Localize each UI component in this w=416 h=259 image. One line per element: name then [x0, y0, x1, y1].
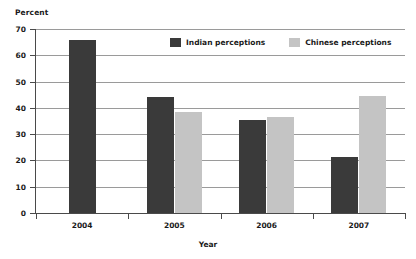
- legend-label-chinese: Chinese perceptions: [305, 38, 391, 47]
- legend-swatch-chinese-icon: [289, 38, 300, 47]
- y-tick-mark: [30, 82, 35, 83]
- x-tick-mark: [36, 213, 37, 219]
- legend-item-indian: Indian perceptions: [170, 38, 265, 47]
- x-tick-mark: [128, 213, 129, 219]
- bar-2006-indian: [239, 120, 266, 213]
- plot-area: [36, 29, 405, 213]
- x-tick-label-2006: 2006: [237, 221, 297, 230]
- x-tick-mark: [221, 213, 222, 219]
- y-tick-mark: [30, 160, 35, 161]
- y-tick-label: 10: [2, 183, 26, 192]
- y-tick-label: 20: [2, 156, 26, 165]
- y-tick-mark: [30, 108, 35, 109]
- chart-legend: Indian perceptions Chinese perceptions: [170, 38, 391, 47]
- y-tick-label: 70: [2, 25, 26, 34]
- y-tick-label: 40: [2, 104, 26, 113]
- legend-item-chinese: Chinese perceptions: [289, 38, 391, 47]
- bar-chart: Percent Indian perceptions Chinese perce…: [0, 0, 416, 259]
- bar-2007-indian: [331, 157, 358, 214]
- y-tick-label: 50: [2, 78, 26, 87]
- x-tick-label-2004: 2004: [52, 221, 112, 230]
- bar-2006-chinese: [267, 117, 294, 213]
- y-tick-mark: [30, 187, 35, 188]
- y-tick-label: 30: [2, 130, 26, 139]
- gridline: [36, 29, 405, 30]
- y-tick-mark: [30, 55, 35, 56]
- y-tick-label: 0: [2, 209, 26, 218]
- y-tick-label: 60: [2, 51, 26, 60]
- y-tick-mark: [30, 213, 35, 214]
- bar-2005-chinese: [175, 112, 202, 213]
- bar-2007-chinese: [359, 96, 386, 213]
- bar-2005-indian: [147, 97, 174, 213]
- x-tick-mark: [313, 213, 314, 219]
- legend-swatch-indian-icon: [170, 38, 181, 47]
- y-tick-mark: [30, 134, 35, 135]
- x-tick-label-2005: 2005: [144, 221, 204, 230]
- bar-2004-indian: [69, 40, 96, 213]
- x-tick-mark: [405, 213, 406, 219]
- x-axis-title: Year: [0, 240, 416, 249]
- x-tick-label-2007: 2007: [329, 221, 389, 230]
- y-axis-title: Percent: [15, 8, 48, 17]
- y-tick-mark: [30, 29, 35, 30]
- legend-label-indian: Indian perceptions: [186, 38, 265, 47]
- x-axis-ticks: [36, 213, 406, 220]
